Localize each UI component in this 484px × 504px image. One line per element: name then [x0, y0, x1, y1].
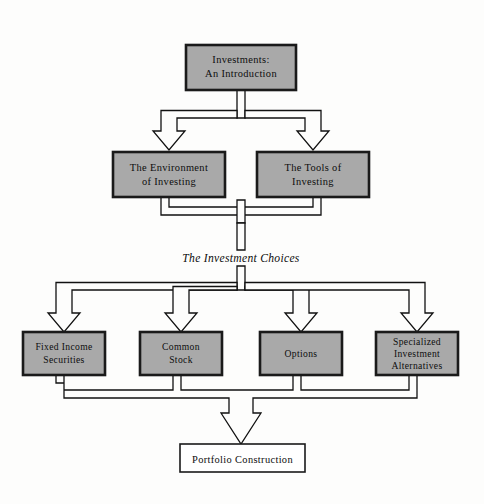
connector-level-three-merge [56, 375, 417, 444]
node-options-label-line-1: Options [285, 348, 318, 359]
node-root-label-line-1: Investments: [212, 54, 269, 65]
node-tools-box[interactable] [257, 152, 369, 197]
connector-root-to-environment [153, 111, 237, 151]
node-environment-box[interactable] [113, 152, 225, 197]
stage-caption-investment-choices: The Investment Choices [182, 252, 300, 265]
connector-split-to-options [245, 287, 317, 333]
connector-split-to-specialized [245, 283, 433, 333]
node-portfolio-construction-label: Portfolio Construction [192, 454, 293, 465]
node-fixed-income-label-line-2: Securities [43, 354, 84, 365]
node-common-stock-label-line-1: Common [162, 341, 200, 352]
node-specialized-label-line-2: Investment [394, 348, 440, 359]
node-root-label-line-2: An Introduction [205, 68, 277, 79]
connector-caption-bottom-stem [237, 266, 245, 290]
node-specialized-label-line-3: Alternatives [391, 360, 442, 371]
node-specialized-label-line-1: Specialized [393, 336, 441, 347]
node-tools-label-line-1: The Tools of [285, 162, 342, 173]
node-environment-label-line-2: of Investing [142, 176, 196, 187]
node-common-stock-label-line-2: Stock [169, 354, 193, 365]
node-fixed-income-label-line-1: Fixed Income [35, 341, 92, 352]
connector-level-two-merge [161, 197, 321, 223]
connector-caption-top-stem [237, 223, 245, 250]
connector-root-stem [237, 90, 245, 118]
flowchart-diagram: Investments: An Introduction The Environ… [0, 0, 484, 504]
node-tools-label-line-2: Investing [292, 176, 334, 187]
node-environment-label-line-1: The Environment [130, 162, 208, 173]
connector-root-to-tools [245, 111, 329, 151]
connector-split-to-common-stock [165, 287, 237, 333]
flowchart-canvas: Investments: An Introduction The Environ… [0, 0, 484, 504]
